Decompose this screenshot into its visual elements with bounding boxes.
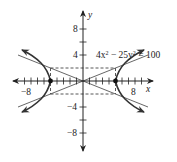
equation-label: 4x2 − 25y2 = 100 [96,50,160,61]
y-tick-label: 8 [73,24,78,34]
y-axis-label: y [87,10,93,20]
hyperbola-graph: −8 8 x 8 4 −4 −8 y 4x2 − 25y2 = 100 [0,0,177,162]
y-tick-label: −4 [67,102,77,112]
x-tick-label: 8 [131,87,136,97]
y-tick-label: −8 [67,128,77,138]
vertex-left [48,79,53,84]
y-tick-label: 4 [73,50,78,60]
x-tick-label: −8 [21,87,31,97]
vertex-right [113,79,118,84]
x-axis-label: x [145,84,151,94]
